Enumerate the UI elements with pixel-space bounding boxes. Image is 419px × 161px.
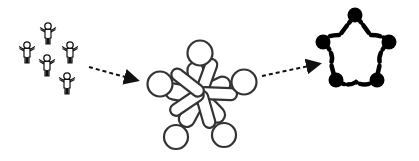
link-ellipses	[164, 57, 237, 130]
intertwined-star	[148, 41, 257, 150]
person-icon	[39, 55, 55, 76]
arrow-dashed-1	[89, 67, 136, 80]
node-circle	[212, 123, 236, 147]
person-icon	[19, 42, 35, 63]
ring-node	[329, 73, 344, 88]
node-circle	[188, 41, 213, 66]
person-icon	[62, 42, 78, 63]
person-icon	[59, 73, 75, 94]
arrow-dashed-2	[262, 64, 318, 76]
node-circle	[232, 70, 257, 95]
ring-star	[316, 8, 397, 88]
person-icon	[40, 23, 56, 44]
node-circle	[148, 72, 173, 97]
ring-node	[370, 73, 385, 88]
node-circle	[164, 125, 188, 149]
individuals-group	[19, 23, 78, 94]
ring-node	[316, 35, 331, 50]
ring-node	[348, 8, 363, 23]
diagram-canvas	[0, 0, 419, 161]
ring-node	[382, 35, 397, 50]
